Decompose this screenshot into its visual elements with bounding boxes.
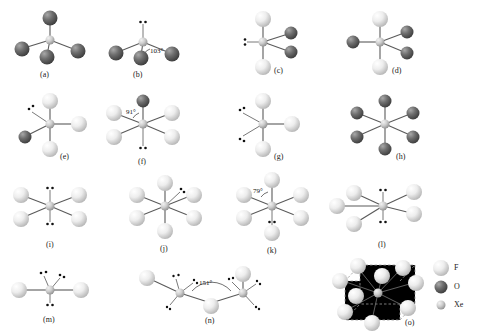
atom-oxygen <box>15 42 30 57</box>
caption-h: (h) <box>396 152 405 161</box>
structure-a <box>15 11 86 65</box>
atom-fluorine <box>408 275 424 291</box>
atom-xenon <box>239 289 248 298</box>
angle-label-b: 103° <box>150 47 163 55</box>
atom-oxygen <box>401 47 414 60</box>
atom-fluorine <box>164 129 180 145</box>
atom-oxygen <box>401 26 414 39</box>
angle-label-f: 91° <box>126 108 136 116</box>
atom-oxygen <box>379 143 392 156</box>
caption-b: (b) <box>133 70 142 79</box>
caption-g: (g) <box>274 152 283 161</box>
angle-label-n: 151° <box>199 279 212 287</box>
atom-oxygen <box>71 44 86 59</box>
atom-fluorine <box>42 141 58 157</box>
atom-oxygen <box>285 46 298 59</box>
atom-fluorine <box>255 141 271 157</box>
atom-fluorine <box>139 270 155 286</box>
caption-i: (i) <box>46 240 54 249</box>
atom-xenon <box>46 286 55 295</box>
structure-n <box>139 266 261 314</box>
structure-d <box>347 11 414 75</box>
structures-canvas <box>0 0 478 336</box>
atom-oxygen <box>407 131 420 144</box>
atom-fluorine <box>236 187 252 203</box>
atom-xenon <box>176 289 185 298</box>
caption-a: (a) <box>40 70 49 79</box>
atom-fluorine <box>255 93 271 109</box>
atom-fluorine <box>42 93 58 109</box>
atom-fluorine <box>157 223 173 239</box>
atom-fluorine <box>406 184 422 200</box>
atom-oxygen <box>379 95 392 108</box>
atom-fluorine <box>186 187 202 203</box>
legend-oxygen-sphere <box>435 281 448 294</box>
atom-xenon <box>139 120 148 129</box>
caption-m: (m) <box>43 315 55 324</box>
atom-fluorine <box>71 211 87 227</box>
atom-xenon <box>46 36 55 45</box>
atom-xenon <box>259 120 268 129</box>
atom-fluorine <box>73 282 89 298</box>
atom-oxygen <box>407 107 420 120</box>
atom-oxygen <box>134 51 149 66</box>
structure-b <box>109 21 180 66</box>
molecular-structures-figure: (a) (b) (c) (d) (e) (f) (g) (h) (i) (j) … <box>0 0 478 336</box>
structure-g <box>239 93 300 157</box>
atom-fluorine <box>348 288 364 304</box>
atom-fluorine <box>346 185 362 201</box>
caption-k: (k) <box>267 246 276 255</box>
legend-label-fluorine: F <box>454 263 458 272</box>
atom-fluorine <box>106 105 122 121</box>
caption-l: (l) <box>378 240 386 249</box>
atom-oxygen <box>137 95 150 108</box>
atom-fluorine <box>255 11 271 27</box>
atom-fluorine <box>11 282 27 298</box>
structure-e <box>19 93 88 157</box>
atom-fluorine <box>284 116 300 132</box>
atom-fluorine <box>329 198 345 214</box>
atom-fluorine <box>129 187 145 203</box>
legend-spheres <box>433 260 449 310</box>
caption-n: (n) <box>205 316 214 325</box>
atom-xenon <box>376 38 385 47</box>
caption-f: (f) <box>138 157 146 166</box>
atom-fluorine <box>264 225 280 241</box>
structure-i <box>13 187 87 227</box>
atom-fluorine <box>337 304 353 320</box>
atom-fluorine <box>350 258 366 274</box>
atom-fluorine <box>71 116 87 132</box>
legend-xenon-sphere <box>437 301 446 310</box>
atom-xenon <box>379 202 388 211</box>
atom-fluorine <box>406 206 422 222</box>
atom-fluorine <box>293 210 309 226</box>
caption-o: (o) <box>405 318 414 327</box>
structure-k <box>236 172 309 241</box>
atom-fluorine <box>255 59 271 75</box>
atom-fluorine <box>71 187 87 203</box>
atom-fluorine <box>346 216 362 232</box>
atom-fluorine <box>264 172 280 188</box>
atom-xenon <box>46 202 55 211</box>
atom-oxygen <box>19 131 32 144</box>
caption-c: (c) <box>274 66 283 75</box>
atom-oxygen <box>351 107 364 120</box>
atom-fluorine <box>364 315 380 331</box>
structure-c <box>244 11 298 75</box>
caption-e: (e) <box>60 152 69 161</box>
atom-xenon <box>46 120 55 129</box>
caption-d: (d) <box>392 66 401 75</box>
caption-j: (j) <box>160 244 168 253</box>
structure-f <box>106 95 180 150</box>
atom-fluorine <box>235 266 251 282</box>
atom-xenon <box>268 202 277 211</box>
atom-fluorine <box>372 11 388 27</box>
legend-fluorine-sphere <box>433 260 449 276</box>
atom-fluorine <box>186 210 202 226</box>
atom-fluorine <box>157 175 173 191</box>
atom-fluorine <box>395 260 411 276</box>
legend-label-oxygen: O <box>454 282 460 291</box>
structure-m <box>11 271 89 307</box>
atom-oxygen <box>40 50 55 65</box>
atom-fluorine <box>372 59 388 75</box>
